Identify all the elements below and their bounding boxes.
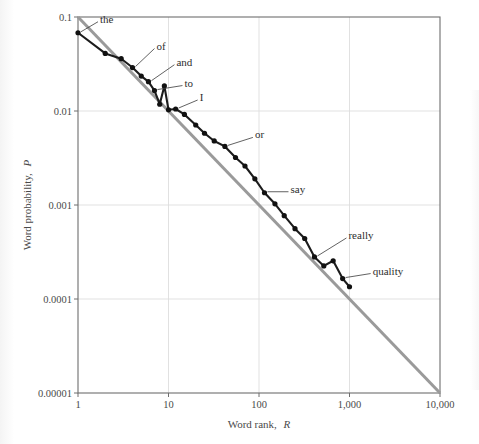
annotation-labels: theofandtoIorsayreallyquality [100,13,404,277]
annotation-label-or: or [255,128,264,140]
y-tick-label: 0.001 [48,200,72,211]
data-point [103,51,108,56]
annotation-label-really: really [348,229,374,241]
data-point [222,144,227,149]
y-tick-label: 0.00001 [38,388,72,399]
data-point [292,226,297,231]
leader-line [179,100,198,108]
data-point [119,56,124,61]
annotation-label-the: the [100,13,114,25]
data-point [233,155,238,160]
data-point [212,138,217,143]
x-axis-title: Word rank, R [228,418,291,430]
data-point [182,112,187,117]
annotation-label-to: to [184,77,193,89]
data-point [146,79,151,84]
data-point [321,263,326,268]
zipf-law-figure: theofandtoIorsayreallyquality 1101001,00… [0,0,479,444]
annotation-label-quality: quality [373,265,404,277]
y-axis-title-text: Word probability, [21,173,33,250]
data-point [347,284,352,289]
data-point [139,74,144,79]
data-point [193,122,198,127]
x-axis-tick-labels: 1101001,00010,000 [75,399,454,410]
data-point [173,106,178,111]
data-point [75,30,80,35]
data-point [262,190,267,195]
data-point [331,258,336,263]
chart-canvas: theofandtoIorsayreallyquality 1101001,00… [0,0,479,444]
y-axis-tick-labels: 0.10.010.0010.00010.00001 [38,12,72,399]
scan-edge-shadow-left [0,0,14,444]
data-point [252,176,257,181]
annotation-label-I: I [200,91,204,103]
leader-line [317,238,346,256]
annotation-label-say: say [290,183,305,195]
x-tick-label: 10,000 [426,399,455,410]
data-point [152,88,157,93]
x-tick-label: 1,000 [338,399,362,410]
data-point [157,102,162,107]
annotation-label-of: of [156,40,166,52]
y-tick-label: 0.01 [54,106,72,117]
y-tick-label: 0.1 [59,12,72,23]
x-tick-label: 1 [75,399,80,410]
data-point [302,236,307,241]
data-point [312,254,317,259]
data-point [202,131,207,136]
y-tick-label: 0.0001 [43,294,72,305]
leader-line [228,137,253,145]
x-axis-title-variable: R [283,418,291,430]
y-axis-title: Word probability, P [21,159,33,250]
leader-line [151,65,174,81]
data-point [130,65,135,70]
data-point [282,213,287,218]
data-point [272,201,277,206]
data-point [242,163,247,168]
x-tick-label: 100 [251,399,267,410]
leader-line [135,49,154,67]
x-tick-label: 10 [163,399,174,410]
data-point [340,276,345,281]
x-axis-title-text: Word rank, [228,418,277,430]
data-point [166,107,171,112]
data-point [162,83,167,88]
leader-line [157,86,182,90]
y-axis-title-variable: P [21,159,33,167]
scan-edge-shadow-right [470,90,479,390]
annotation-label-and: and [176,56,192,68]
